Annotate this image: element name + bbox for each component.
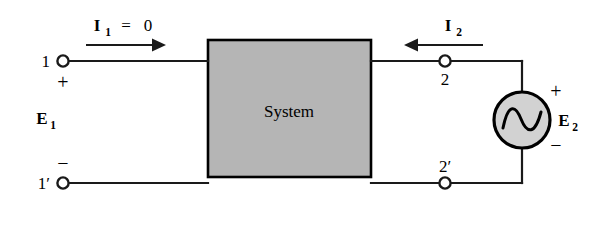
terminal-2-node bbox=[439, 55, 450, 66]
terminal-1prime-node bbox=[57, 177, 68, 188]
left-port-minus-sign: − bbox=[57, 152, 68, 174]
current-i1-arrow-head bbox=[152, 39, 166, 52]
voltage-e2-subscript: 2 bbox=[572, 121, 578, 133]
current-i1-equals: = bbox=[121, 16, 131, 35]
terminal-1-node bbox=[57, 55, 68, 66]
current-i2-symbol: I bbox=[445, 16, 452, 35]
terminal-1prime-label: 1′ bbox=[38, 174, 50, 193]
terminal-2prime-label: 2′ bbox=[439, 157, 451, 176]
current-i2-subscript: 2 bbox=[456, 26, 462, 38]
terminal-1-label: 1 bbox=[42, 52, 51, 71]
current-i1-value: 0 bbox=[144, 16, 153, 35]
left-port-plus-sign: + bbox=[57, 71, 68, 93]
current-i2-arrow-head bbox=[404, 39, 418, 52]
voltage-label-e1: E 1 bbox=[36, 109, 56, 131]
terminal-2-label: 2 bbox=[441, 70, 450, 89]
current-annotation-i1: I 1 = 0 bbox=[86, 16, 166, 52]
current-i1-symbol: I bbox=[94, 16, 101, 35]
voltage-label-e2: E 2 bbox=[558, 111, 578, 133]
source-minus-sign: − bbox=[550, 134, 561, 156]
source-plus-sign: + bbox=[550, 80, 561, 102]
two-port-circuit-svg: System 1 1′ + − E 1 I 1 = 0 bbox=[0, 0, 605, 225]
voltage-e1-symbol: E bbox=[36, 109, 47, 128]
current-i1-subscript: 1 bbox=[105, 26, 111, 38]
current-annotation-i2: I 2 bbox=[404, 16, 483, 52]
voltage-e1-subscript: 1 bbox=[50, 119, 56, 131]
circuit-diagram-canvas: System 1 1′ + − E 1 I 1 = 0 bbox=[0, 0, 605, 225]
voltage-e2-symbol: E bbox=[558, 111, 569, 130]
system-block-label: System bbox=[264, 102, 314, 121]
terminal-2prime-node bbox=[439, 177, 450, 188]
